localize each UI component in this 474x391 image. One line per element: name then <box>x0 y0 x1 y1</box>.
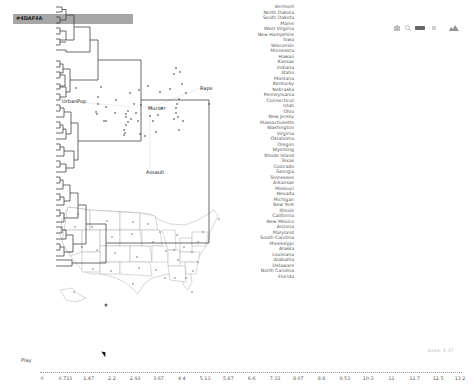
area-chart-icon[interactable] <box>448 24 460 32</box>
leaf-label: Montana <box>274 76 294 81</box>
leaf-label: West Virginia <box>264 26 294 31</box>
zoom-icon[interactable] <box>404 24 412 32</box>
pan-icon[interactable] <box>414 24 426 32</box>
leaf-label: South Dakota <box>263 15 294 20</box>
leaf-label: Missouri <box>275 186 294 191</box>
slider-tick: 10.3 <box>363 376 374 381</box>
slider-tick: 3.67 <box>153 376 164 381</box>
leaf-label: Connecticut <box>266 98 294 103</box>
leaf-label: Alabama <box>274 257 294 262</box>
leaf-label: Kansas <box>278 59 294 64</box>
slider-tick: 9.53 <box>340 376 351 381</box>
slider-tick: 12.5 <box>433 376 444 381</box>
leaf-label: Nebraska <box>272 87 294 92</box>
slider-tick: 1.47 <box>83 376 94 381</box>
slider-tick: 4.4 <box>178 376 186 381</box>
slider-tick: 7.33 <box>270 376 281 381</box>
leaf-label: Utah <box>283 103 294 108</box>
slider-tick: 0 <box>40 376 43 381</box>
leaf-label: Idaho <box>281 70 294 75</box>
leaf-label: California <box>272 213 294 218</box>
camera-icon[interactable] <box>393 24 401 32</box>
dendrogram-leaf-labels: Vermont North Dakota South Dakota Maine … <box>214 4 294 284</box>
slider-tick: 11.7 <box>409 376 420 381</box>
slider-tick: 11 <box>388 376 394 381</box>
leaf-label: Ohio <box>283 109 294 114</box>
select-icon[interactable] <box>430 24 438 32</box>
slider-tick: 8.8 <box>318 376 326 381</box>
slider-tick: 5.13 <box>200 376 211 381</box>
leaf-label: South Carolina <box>260 235 294 240</box>
slider-tick: 5.87 <box>223 376 234 381</box>
leaf-label: Colorado <box>273 164 294 169</box>
plot-toolbar <box>390 24 470 34</box>
leaf-label: Pennsylvania <box>264 92 294 97</box>
leaf-label: Illinois <box>279 208 294 213</box>
leaf-label: Maine <box>280 21 294 26</box>
leaf-label: Arkansas <box>273 180 294 185</box>
slider-tick: 8.07 <box>293 376 304 381</box>
play-button[interactable]: Play <box>21 357 31 363</box>
leaf-label: Massachusetts <box>260 120 294 125</box>
leaf-label: Florida <box>278 274 294 279</box>
leaf-label: Delaware <box>272 263 294 268</box>
animation-slider: Play aaaa: 8.47 0 0.733 1.47 2.2 2.93 3.… <box>0 345 474 391</box>
slider-track[interactable] <box>40 366 462 373</box>
leaf-label: New Hampshire <box>258 32 294 37</box>
leaf-label: Wyoming <box>272 147 294 152</box>
leaf-label: Mississippi <box>270 241 294 246</box>
leaf-label: Oregon <box>277 142 294 147</box>
slider-tick: 6.6 <box>248 376 256 381</box>
leaf-label: Kentucky <box>273 81 294 86</box>
slider-tick: 2.2 <box>108 376 116 381</box>
leaf-label: Alaska <box>279 246 294 251</box>
leaf-label: New Mexico <box>266 219 294 224</box>
slider-value-readout: aaaa: 8.47 <box>427 347 454 353</box>
leaf-label: Nevada <box>276 191 294 196</box>
leaf-label: Oklahoma <box>271 136 294 141</box>
leaf-label: Vermont <box>275 4 294 9</box>
leaf-label: Wisconsin <box>271 43 294 48</box>
leaf-label: Michigan <box>273 197 294 202</box>
dendrogram-tree <box>0 0 234 285</box>
leaf-label: New Jersey <box>269 114 295 119</box>
leaf-label: Washington <box>267 125 294 130</box>
leaf-label: Maryland <box>273 230 294 235</box>
leaf-label: Indiana <box>277 65 294 70</box>
leaf-label: Tennessee <box>270 175 294 180</box>
leaf-label: Arizona <box>277 224 294 229</box>
leaf-label: Texas <box>281 158 294 163</box>
leaf-label: Minnesota <box>270 48 294 53</box>
leaf-label: North Dakota <box>263 10 294 15</box>
leaf-label: Hawaii <box>279 54 294 59</box>
leaf-label: Louisiana <box>272 252 294 257</box>
leaf-label: New York <box>273 202 294 207</box>
leaf-label: Iowa <box>283 37 294 42</box>
leaf-label: Virginia <box>277 131 294 136</box>
leaf-label: North Carolina <box>261 268 294 273</box>
slider-tick: 0.733 <box>58 376 72 381</box>
leaf-label: Rhode Island <box>264 153 294 158</box>
slider-tick: 2.93 <box>130 376 141 381</box>
slider-tick: 13.2 <box>455 376 466 381</box>
mouse-cursor-icon <box>101 350 107 357</box>
leaf-label: Georgia <box>276 169 294 174</box>
